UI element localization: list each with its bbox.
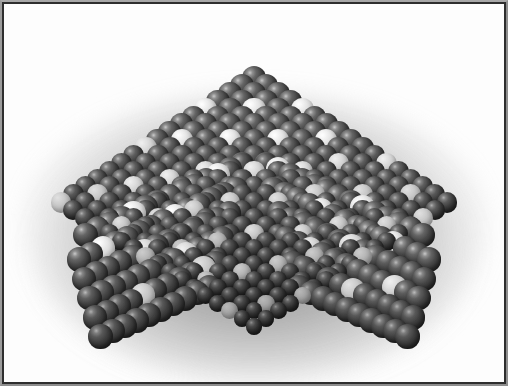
- host-atom-sphere: [246, 318, 262, 334]
- host-atom-sphere: [88, 324, 112, 348]
- host-atom-sphere: [395, 324, 419, 348]
- scene-canvas: [4, 4, 504, 382]
- figure-frame: [0, 0, 508, 386]
- crystal-lattice: [4, 4, 504, 382]
